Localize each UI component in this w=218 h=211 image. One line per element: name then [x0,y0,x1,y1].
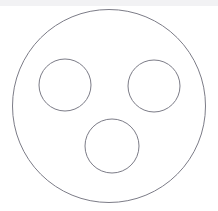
upper-left-circle [39,59,91,111]
diagram-canvas [0,0,218,211]
upper-right-circle [128,60,180,112]
circles-figure [0,0,218,211]
lower-center-circle [85,119,139,173]
outer-circle [13,10,206,203]
